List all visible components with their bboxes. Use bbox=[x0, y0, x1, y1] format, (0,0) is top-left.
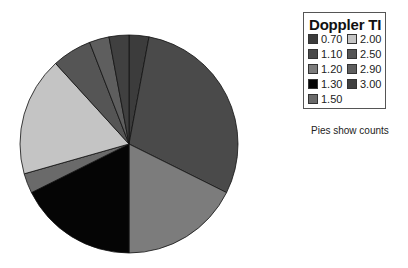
legend-swatch bbox=[347, 64, 357, 74]
legend-swatch bbox=[347, 34, 357, 44]
legend-label: 2.50 bbox=[360, 48, 381, 60]
legend-item: 1.30 bbox=[308, 78, 342, 90]
legend-swatch bbox=[308, 34, 318, 44]
legend-label: 1.50 bbox=[321, 93, 342, 105]
legend-item: 2.00 bbox=[347, 33, 381, 45]
legend-title: Doppler TI bbox=[309, 16, 381, 33]
legend-item: 2.90 bbox=[347, 63, 381, 75]
legend-label: 1.20 bbox=[321, 63, 342, 75]
legend-item: 1.20 bbox=[308, 63, 342, 75]
legend-swatch bbox=[308, 94, 318, 104]
legend-label: 3.00 bbox=[360, 78, 381, 90]
legend-swatch bbox=[308, 79, 318, 89]
legend-item: 2.50 bbox=[347, 48, 381, 60]
legend-swatch bbox=[347, 49, 357, 59]
legend-label: 1.10 bbox=[321, 48, 342, 60]
legend-label: 2.90 bbox=[360, 63, 381, 75]
legend-item: 1.10 bbox=[308, 48, 342, 60]
legend-swatch bbox=[308, 49, 318, 59]
legend-item: 3.00 bbox=[347, 78, 381, 90]
legend-label: 0.70 bbox=[321, 33, 342, 45]
legend-swatch bbox=[347, 79, 357, 89]
legend-swatch bbox=[308, 64, 318, 74]
legend-item: 1.50 bbox=[308, 93, 342, 105]
legend: Doppler TI 0.701.101.201.301.502.002.502… bbox=[303, 12, 386, 109]
pies-show-counts-note: Pies show counts bbox=[311, 125, 389, 136]
legend-label: 1.30 bbox=[321, 78, 342, 90]
legend-item: 0.70 bbox=[308, 33, 342, 45]
legend-label: 2.00 bbox=[360, 33, 381, 45]
